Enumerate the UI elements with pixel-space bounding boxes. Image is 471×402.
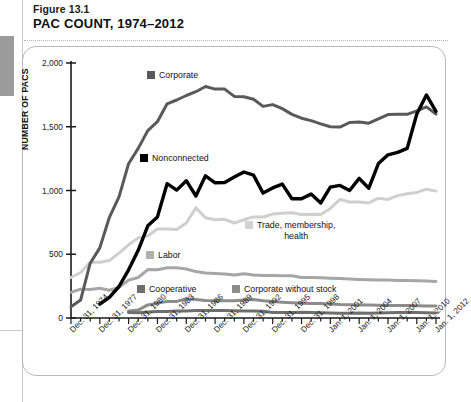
y-tick-label: 500 bbox=[29, 249, 63, 259]
legend-swatch bbox=[147, 71, 155, 79]
legend-item: Corporate without stock bbox=[232, 284, 336, 295]
legend-item: Corporate bbox=[147, 70, 198, 81]
legend-swatch bbox=[140, 154, 148, 162]
legend-swatch bbox=[245, 221, 253, 229]
y-tick-label: 1,000 bbox=[29, 186, 63, 196]
y-tick-label: 0 bbox=[29, 313, 63, 323]
legend-item: Labor bbox=[146, 250, 181, 261]
legend-item: Cooperative bbox=[137, 284, 196, 295]
legend-label: Cooperative bbox=[149, 284, 196, 294]
legend-label: Nonconnected bbox=[152, 153, 209, 163]
legend-swatch bbox=[137, 285, 145, 293]
legend-item: Nonconnected bbox=[140, 153, 209, 164]
y-tick-label: 1,500 bbox=[29, 122, 63, 132]
legend-label: Trade, membership, bbox=[257, 220, 335, 230]
y-tick-label: 2,000 bbox=[29, 58, 63, 68]
legend-label-line2: health bbox=[245, 231, 335, 242]
legend-label: Corporate without stock bbox=[244, 284, 336, 294]
legend-label: Labor bbox=[158, 250, 181, 260]
legend-swatch bbox=[146, 251, 154, 259]
legend-swatch bbox=[232, 285, 240, 293]
legend-label: Corporate bbox=[159, 70, 198, 80]
legend-item: Trade, membership,health bbox=[245, 220, 335, 241]
